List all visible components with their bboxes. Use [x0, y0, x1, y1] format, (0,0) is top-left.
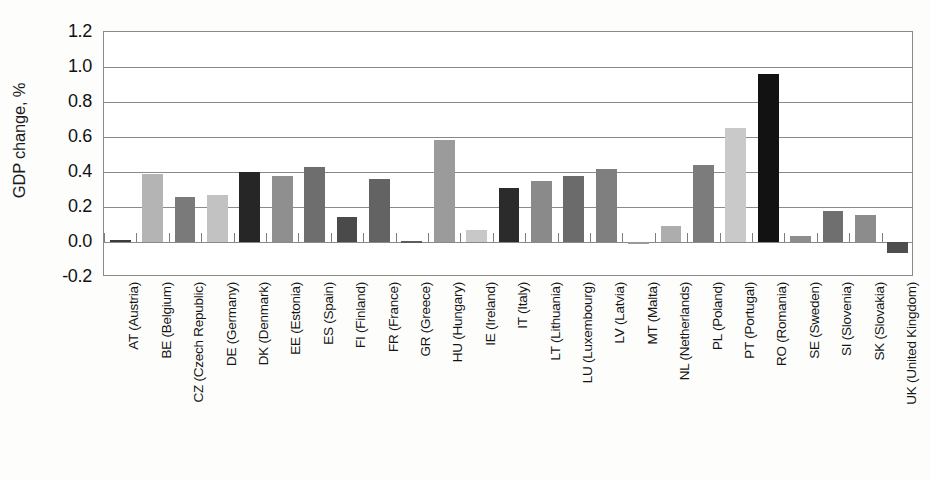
bar[interactable]: [369, 179, 390, 242]
bar[interactable]: [499, 188, 520, 242]
y-tick-label: -0.2: [62, 266, 92, 287]
bar[interactable]: [693, 165, 714, 242]
x-tick-label: GR (Greece): [418, 282, 433, 357]
bar-slot[interactable]: [784, 32, 816, 275]
x-tick-label: UK (United Kingdom): [904, 282, 919, 405]
x-axis-tick: [817, 233, 818, 242]
y-tick-label: 0.6: [68, 126, 92, 147]
bar-slot[interactable]: [234, 32, 266, 275]
x-tick-label: BE (Belgium): [159, 282, 174, 359]
bar[interactable]: [434, 140, 455, 242]
x-tick-label: RO (Romania): [774, 282, 789, 366]
bar[interactable]: [661, 226, 682, 242]
y-axis-title-text: GDP change, %: [11, 82, 30, 197]
bar-slot[interactable]: [460, 32, 492, 275]
x-axis-tick: [136, 233, 137, 242]
bar-slot[interactable]: [136, 32, 168, 275]
x-axis-tick: [234, 233, 235, 242]
bar-slot[interactable]: [266, 32, 298, 275]
bars-layer: [104, 32, 912, 275]
bar[interactable]: [596, 169, 617, 242]
bar[interactable]: [272, 176, 293, 242]
x-axis-tick: [104, 233, 105, 242]
bar[interactable]: [401, 241, 422, 243]
x-axis-tick: [558, 233, 559, 242]
bar-slot[interactable]: [493, 32, 525, 275]
x-axis-tick: [882, 233, 883, 242]
x-tick-label: IT (Italy): [515, 282, 530, 329]
x-tick-label: PT (Portugal): [742, 282, 757, 359]
bar-slot[interactable]: [428, 32, 460, 275]
bar-slot[interactable]: [298, 32, 330, 275]
bar[interactable]: [175, 197, 196, 243]
bar-slot[interactable]: [882, 32, 914, 275]
bar-slot[interactable]: [622, 32, 654, 275]
bar-slot[interactable]: [104, 32, 136, 275]
x-axis-tick: [428, 233, 429, 242]
x-tick-label: SK (Slovakia): [872, 282, 887, 361]
y-tick-label: 0.2: [68, 196, 92, 217]
bar[interactable]: [823, 211, 844, 242]
bar-slot[interactable]: [558, 32, 590, 275]
x-tick-label: LV (Latvia): [612, 282, 627, 344]
bar-slot[interactable]: [525, 32, 557, 275]
bar[interactable]: [563, 176, 584, 242]
y-tick-label: 1.0: [68, 56, 92, 77]
x-tick-label: IE (Ireland): [483, 282, 498, 346]
bar-slot[interactable]: [687, 32, 719, 275]
bar[interactable]: [725, 128, 746, 242]
bar-slot[interactable]: [752, 32, 784, 275]
x-axis-tick: [493, 233, 494, 242]
x-axis-tick: [784, 233, 785, 242]
x-tick-label: EE (Estonia): [288, 282, 303, 355]
plot-area: [103, 31, 913, 276]
x-tick-label: SE (Sweden): [807, 282, 822, 359]
bar[interactable]: [628, 242, 649, 244]
bar[interactable]: [790, 236, 811, 242]
x-tick-label: CZ (Czech Republic): [191, 282, 206, 403]
bar[interactable]: [304, 167, 325, 242]
x-axis-tick: [525, 233, 526, 242]
bar-slot[interactable]: [849, 32, 881, 275]
bar-slot[interactable]: [396, 32, 428, 275]
bar[interactable]: [239, 172, 260, 242]
y-axis-title: GDP change, %: [0, 0, 40, 280]
bar[interactable]: [207, 195, 228, 242]
bar-slot[interactable]: [169, 32, 201, 275]
x-axis-tick: [266, 233, 267, 242]
x-tick-label: FR (France): [386, 282, 401, 352]
x-tick-label: DE (Germany): [224, 282, 239, 366]
x-tick-label: AT (Austria): [126, 282, 141, 350]
bar[interactable]: [110, 240, 131, 242]
bar[interactable]: [855, 215, 876, 242]
x-tick-label: NL (Netherlands): [677, 282, 692, 380]
bar-slot[interactable]: [201, 32, 233, 275]
y-tick-label: 0.8: [68, 91, 92, 112]
x-tick-label: FI (Finland): [353, 282, 368, 348]
bar-slot[interactable]: [655, 32, 687, 275]
x-axis-tick: [363, 233, 364, 242]
x-tick-label: SI (Slovenia): [839, 282, 854, 356]
x-axis-tick: [752, 233, 753, 242]
bar[interactable]: [531, 181, 552, 242]
x-axis-tick: [331, 233, 332, 242]
bar-slot[interactable]: [590, 32, 622, 275]
bar[interactable]: [337, 217, 358, 242]
bar-slot[interactable]: [817, 32, 849, 275]
x-axis-tick: [720, 233, 721, 242]
x-tick-label: ES (Spain): [321, 282, 336, 345]
bar[interactable]: [142, 174, 163, 242]
x-axis-tick: [849, 233, 850, 242]
x-axis-tick: [687, 233, 688, 242]
bar-slot[interactable]: [331, 32, 363, 275]
y-axis-tick-labels: 1.21.00.80.60.40.20.0-0.2: [44, 0, 98, 290]
bar-slot[interactable]: [720, 32, 752, 275]
bar[interactable]: [887, 242, 908, 253]
x-axis-tick-labels: AT (Austria)BE (Belgium)CZ (Czech Republ…: [103, 278, 913, 478]
x-axis-tick: [201, 233, 202, 242]
bar[interactable]: [758, 74, 779, 242]
bar-slot[interactable]: [363, 32, 395, 275]
y-tick-label: 1.2: [68, 21, 92, 42]
x-axis-tick: [460, 233, 461, 242]
bar[interactable]: [466, 230, 487, 242]
